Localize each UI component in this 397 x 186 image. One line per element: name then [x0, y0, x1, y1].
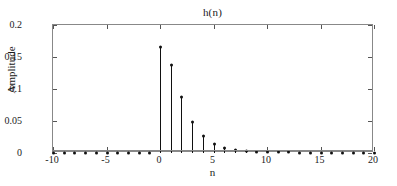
stem-marker	[309, 152, 312, 155]
plot-inner	[53, 25, 372, 151]
figure-stem-plot: h(n) Amplitude n 00.050.10.150.2-10-5051…	[0, 0, 397, 186]
stem-marker	[180, 95, 183, 98]
x-axis-tick-mark	[107, 25, 108, 29]
y-axis-tick-mark	[368, 57, 372, 58]
stem-marker	[341, 152, 344, 155]
x-axis-tick-label: 5	[210, 154, 215, 165]
stem-marker	[352, 152, 355, 155]
plot-area	[52, 24, 373, 152]
stem-marker	[84, 152, 87, 155]
stem-marker	[277, 151, 280, 154]
chart-title: h(n)	[52, 6, 373, 18]
x-axis-tick-label: 20	[368, 154, 378, 165]
y-axis-tick-label: 0.15	[5, 51, 23, 62]
x-axis-tick-mark	[160, 25, 161, 29]
stem-marker	[362, 152, 365, 155]
y-axis-tick-mark	[368, 25, 372, 26]
x-axis-tick-label: -10	[45, 154, 58, 165]
y-axis-tick-label: 0.1	[10, 83, 23, 94]
y-axis-tick-label: 0.2	[10, 19, 23, 30]
x-axis-tick-mark	[374, 25, 375, 29]
stem-marker	[95, 152, 98, 155]
x-axis-baseline	[53, 150, 372, 151]
x-axis-tick-mark	[267, 25, 268, 29]
stem-marker	[287, 151, 290, 154]
stem-marker	[298, 152, 301, 155]
stem-line	[160, 47, 161, 153]
y-axis-label: Amplitude	[5, 15, 17, 125]
stem-line	[171, 65, 172, 153]
stem-marker	[148, 152, 151, 155]
stem-marker	[63, 152, 66, 155]
x-axis-tick-mark	[374, 147, 375, 151]
stem-line	[181, 97, 182, 153]
stem-line	[192, 122, 193, 153]
stem-marker	[330, 152, 333, 155]
x-axis-tick-label: 10	[261, 154, 271, 165]
stem-marker	[138, 152, 141, 155]
x-axis-tick-label: 15	[315, 154, 325, 165]
stem-marker	[223, 146, 226, 149]
y-axis-tick-label: 0	[17, 147, 22, 158]
y-axis-tick-mark	[53, 89, 57, 90]
stem-marker	[127, 152, 130, 155]
x-axis-tick-label: -5	[101, 154, 109, 165]
stem-marker	[191, 121, 194, 124]
y-axis-tick-mark	[53, 121, 57, 122]
x-axis-tick-mark	[53, 25, 54, 29]
y-axis-tick-mark	[53, 57, 57, 58]
stem-marker	[170, 63, 173, 66]
x-axis-label: n	[52, 166, 373, 178]
stem-marker	[213, 143, 216, 146]
y-axis-tick-label: 0.05	[5, 115, 23, 126]
stem-marker	[116, 152, 119, 155]
x-axis-tick-mark	[321, 25, 322, 29]
stem-marker	[73, 152, 76, 155]
x-axis-tick-label: 0	[157, 154, 162, 165]
stem-marker	[202, 134, 205, 137]
y-axis-tick-mark	[368, 89, 372, 90]
x-axis-tick-mark	[214, 25, 215, 29]
stem-marker	[159, 46, 162, 49]
y-axis-tick-mark	[368, 121, 372, 122]
